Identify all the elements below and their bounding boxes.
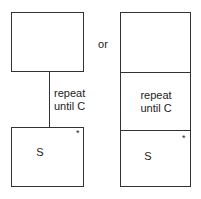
left-repeat-label: repeat until C	[54, 87, 94, 113]
right-divider-2	[120, 130, 191, 131]
left-body-label: S	[30, 146, 50, 159]
left-top-box	[11, 12, 84, 72]
or-label: or	[95, 38, 111, 51]
left-asterisk: *	[76, 128, 80, 138]
right-divider-1	[120, 72, 191, 73]
right-body-label: S	[138, 150, 158, 163]
right-asterisk: *	[182, 133, 186, 143]
right-repeat-label: repeat until C	[130, 89, 182, 115]
left-connector-line	[49, 71, 50, 128]
